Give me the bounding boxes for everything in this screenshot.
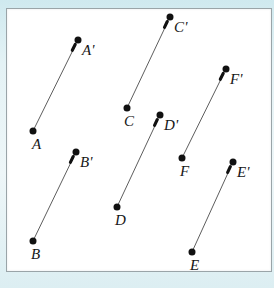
segment-c-end-point-dot	[167, 14, 174, 21]
segment-e-end-point-dot	[230, 159, 237, 166]
segment-b-start-point-dot	[30, 238, 37, 245]
point-label-D-prime: D'	[164, 118, 178, 133]
segment-b-end-point-dot	[73, 149, 80, 156]
segment-a-end-point-dot	[75, 37, 82, 44]
segment-f	[179, 66, 230, 162]
point-label-F: F	[180, 164, 189, 179]
segment-c-start-point-dot	[124, 105, 131, 112]
point-label-A: A	[32, 137, 41, 152]
segment-c-line	[128, 21, 168, 105]
segment-e-arrow-tick-icon	[228, 167, 231, 173]
segment-f-end-point-dot	[223, 66, 230, 73]
point-label-E-prime: E'	[237, 165, 250, 180]
segment-e-start-point-dot	[189, 249, 196, 256]
segment-a-start-point-dot	[30, 128, 37, 135]
segment-c	[124, 14, 174, 112]
point-label-B: B	[31, 247, 40, 262]
segment-f-start-point-dot	[179, 155, 186, 162]
point-label-F-prime: F'	[230, 72, 243, 87]
segment-b	[30, 149, 80, 245]
geometry-figure: A A' B B' C C' D D' E E' F F'	[0, 0, 274, 288]
segment-b-arrow-tick-icon	[70, 157, 73, 163]
segment-e-line	[193, 166, 231, 249]
point-label-A-prime: A'	[82, 43, 95, 58]
segment-e	[189, 159, 237, 256]
point-label-D: D	[115, 213, 126, 228]
segment-a-arrow-tick-icon	[72, 44, 75, 50]
point-label-C: C	[124, 114, 134, 129]
point-label-E: E	[190, 258, 199, 273]
segment-f-arrow-tick-icon	[220, 73, 223, 79]
segment-d-start-point-dot	[114, 204, 121, 211]
segment-d	[114, 112, 164, 211]
segment-a	[30, 37, 82, 135]
segment-d-arrow-tick-icon	[155, 120, 158, 126]
segment-b-line	[34, 156, 74, 238]
segment-c-arrow-tick-icon	[164, 22, 167, 28]
segment-f-line	[183, 73, 224, 155]
segment-a-line	[34, 44, 76, 128]
point-label-C-prime: C'	[174, 20, 188, 35]
point-label-B-prime: B'	[80, 155, 93, 170]
segment-d-end-point-dot	[157, 112, 164, 119]
segment-d-line	[118, 119, 158, 204]
